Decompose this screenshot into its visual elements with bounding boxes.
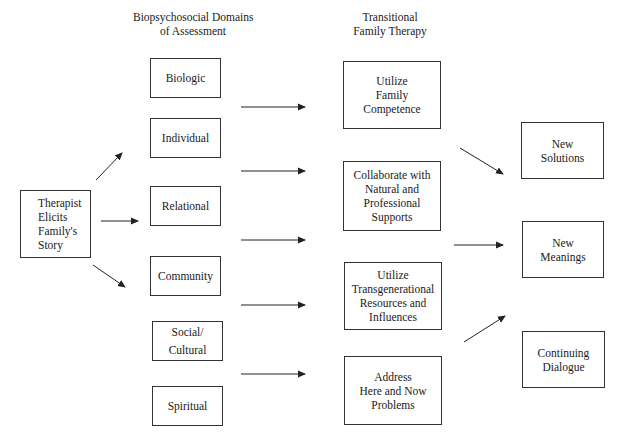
- domain-box-spiritual: Spiritual: [152, 386, 223, 426]
- domain-label: Relational: [162, 199, 209, 213]
- domain-box-individual: Individual: [150, 118, 221, 158]
- therapy-label: Utilize Family Competence: [363, 74, 420, 116]
- domain-label: Individual: [162, 131, 209, 145]
- therapy-box-family-competence: Utilize Family Competence: [343, 61, 441, 129]
- arrow-start-up: [96, 153, 122, 180]
- therapy-box-transgenerational: Utilize Transgenerational Resources and …: [344, 262, 442, 330]
- therapy-label: Collaborate with Natural and Professiona…: [354, 168, 431, 224]
- therapy-header-line2: Family Therapy: [340, 24, 440, 38]
- domains-header-line2: of Assessment: [133, 24, 253, 38]
- arrow-start-down: [93, 265, 125, 287]
- domain-label: Social/ Cultural: [169, 323, 207, 359]
- outcome-label: New Meanings: [540, 236, 585, 264]
- therapy-header-line1: Transitional: [340, 10, 440, 24]
- therapy-label: Address Here and Now Problems: [359, 370, 426, 412]
- arrow-to-dialogue: [464, 316, 505, 342]
- domain-box-relational: Relational: [150, 186, 221, 226]
- therapy-label: Utilize Transgenerational Resources and …: [352, 268, 435, 324]
- outcome-box-new-meanings: New Meanings: [522, 221, 604, 278]
- outcome-box-new-solutions: New Solutions: [521, 122, 604, 179]
- domains-header-line1: Biopsychosocial Domains: [133, 10, 253, 24]
- diagram-canvas: Biopsychosocial Domains of Assessment Tr…: [0, 0, 622, 439]
- arrow-to-solutions: [460, 148, 503, 174]
- outcome-box-continuing-dialogue: Continuing Dialogue: [522, 331, 605, 388]
- therapist-elicits-story-label: Therapist Elicits Family's Story: [38, 196, 81, 252]
- domain-box-community: Community: [150, 256, 221, 296]
- outcome-label: New Solutions: [541, 137, 584, 165]
- domain-label: Biologic: [166, 71, 206, 85]
- outcome-label: Continuing Dialogue: [538, 346, 590, 374]
- therapist-elicits-story-box: Therapist Elicits Family's Story: [20, 190, 91, 258]
- domain-label: Community: [158, 269, 213, 283]
- therapy-box-here-and-now: Address Here and Now Problems: [344, 356, 442, 425]
- domain-box-biologic: Biologic: [150, 58, 221, 98]
- domain-label: Spiritual: [168, 399, 208, 413]
- domains-header: Biopsychosocial Domains of Assessment: [133, 10, 253, 38]
- domain-box-social-cultural: Social/ Cultural: [152, 321, 223, 361]
- therapy-header: Transitional Family Therapy: [340, 10, 440, 38]
- therapy-box-collaborate-supports: Collaborate with Natural and Professiona…: [343, 161, 441, 231]
